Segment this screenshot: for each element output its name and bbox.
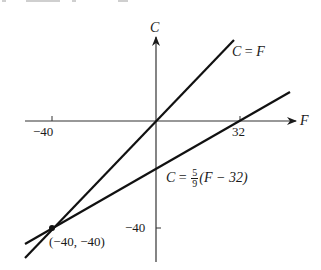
x-tick-label-32: 32 [232,125,245,138]
fraction-five-ninths: 5 9 [191,168,198,189]
label-eq: = [245,44,253,59]
formula-tail: (F − 32) [199,170,247,185]
f-axis-label: F [300,114,309,128]
label-conversion-formula: C = 5 9 (F − 32) [166,168,248,189]
intersection-point [49,225,55,231]
x-tick-label-neg40: −40 [33,125,53,138]
label-rhs: F [256,44,265,59]
formula-eq: = [179,170,187,185]
c-axis-label: C [150,21,159,35]
label-c-equals-f: C = F [232,45,265,59]
fraction-denominator: 9 [191,179,198,189]
intersection-label: (−40, −40) [49,235,105,248]
line-conversion [25,92,290,244]
formula-lhs: C [166,170,175,185]
label-lhs: C [232,44,241,59]
y-tick-label-neg40: −40 [125,221,145,234]
